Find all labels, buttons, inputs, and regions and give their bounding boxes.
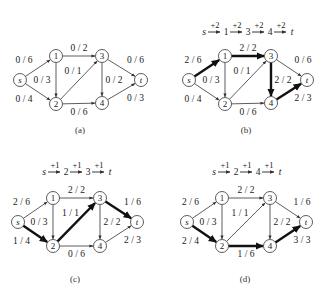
edge-label-s-1: 2 / 6 bbox=[185, 55, 202, 65]
edge-label-s-1: 0 / 6 bbox=[16, 55, 33, 65]
node-label: s bbox=[185, 217, 189, 227]
edge-label-2-3: 0 / 1 bbox=[234, 66, 251, 76]
edge-label-3-4: 2 / 2 bbox=[275, 75, 292, 85]
path-node-3: 3 bbox=[86, 167, 91, 177]
edge-label-1-2: 0 / 3 bbox=[203, 75, 220, 85]
edge-label-s-1: 2 / 6 bbox=[182, 197, 199, 207]
node-label: 2 bbox=[220, 241, 225, 251]
edge-label-2-3: 0 / 1 bbox=[65, 66, 82, 76]
edge-label-s-2: 1 / 4 bbox=[13, 236, 30, 246]
node-t: t bbox=[135, 74, 148, 87]
node-label: 1 bbox=[54, 51, 59, 61]
edge-label-1-2: 0 / 3 bbox=[31, 217, 48, 227]
node-3: 3 bbox=[94, 192, 107, 205]
edge-label-4-t: 2 / 3 bbox=[295, 93, 312, 103]
node-label: 1 bbox=[223, 51, 228, 61]
panel-caption: (c) bbox=[70, 274, 80, 284]
node-t: t bbox=[301, 74, 314, 87]
path-node-4: 4 bbox=[256, 167, 261, 177]
edge-2-4 bbox=[62, 103, 95, 104]
path-node-s: s bbox=[42, 167, 46, 177]
node-3: 3 bbox=[96, 50, 109, 63]
node-label: 1 bbox=[220, 193, 225, 203]
panel-caption: (b) bbox=[241, 125, 252, 135]
edge-label-3-4: 0 / 2 bbox=[106, 75, 123, 85]
node-label: 3 bbox=[98, 193, 103, 203]
panel-caption: (d) bbox=[240, 274, 251, 284]
node-1: 1 bbox=[216, 192, 229, 205]
node-2: 2 bbox=[216, 240, 229, 253]
edge-label-2-3: 1 / 1 bbox=[62, 208, 79, 218]
augmenting-path: s+21+23+24+2t bbox=[202, 20, 294, 37]
edge-label-4-t: 0 / 3 bbox=[127, 93, 144, 103]
node-s: s bbox=[12, 216, 25, 229]
path-increment: +2 bbox=[232, 20, 241, 30]
path-node-1: 1 bbox=[224, 27, 229, 37]
path-node-3: 3 bbox=[246, 27, 251, 37]
edge-label-1-2: 0 / 3 bbox=[200, 217, 217, 227]
node-label: 3 bbox=[100, 51, 105, 61]
edge-label-3-4: 2 / 2 bbox=[104, 217, 121, 227]
panel-caption: (a) bbox=[75, 125, 85, 135]
path-increment: +1 bbox=[264, 160, 273, 170]
panel-a: 0 / 60 / 40 / 30 / 20 / 10 / 60 / 20 / 6… bbox=[14, 43, 148, 135]
node-1: 1 bbox=[50, 50, 63, 63]
panel-b: 2 / 60 / 40 / 32 / 20 / 10 / 62 / 20 / 6… bbox=[183, 20, 314, 135]
node-1: 1 bbox=[219, 50, 232, 63]
edge-label-3-4: 2 / 2 bbox=[274, 217, 291, 227]
edge-label-3-t: 0 / 6 bbox=[295, 55, 312, 65]
node-2: 2 bbox=[219, 98, 232, 111]
path-increment: +2 bbox=[276, 20, 285, 30]
node-4: 4 bbox=[264, 240, 277, 253]
node-label: 3 bbox=[269, 51, 274, 61]
edge-label-2-4: 0 / 6 bbox=[68, 249, 85, 259]
node-label: 3 bbox=[268, 193, 273, 203]
path-node-s: s bbox=[212, 167, 216, 177]
node-s: s bbox=[183, 74, 196, 87]
node-label: 2 bbox=[223, 99, 228, 109]
path-node-2: 2 bbox=[234, 167, 239, 177]
edge-label-s-2: 0 / 4 bbox=[16, 94, 33, 104]
node-label: 1 bbox=[51, 193, 56, 203]
panel-c: 2 / 61 / 40 / 32 / 21 / 10 / 62 / 21 / 6… bbox=[12, 160, 144, 284]
node-t: t bbox=[300, 216, 313, 229]
edge-label-2-4: 0 / 6 bbox=[71, 107, 88, 117]
edge-label-1-3: 2 / 2 bbox=[68, 185, 85, 195]
path-increment: +1 bbox=[94, 160, 103, 170]
path-node-4: 4 bbox=[268, 27, 273, 37]
node-2: 2 bbox=[47, 240, 60, 253]
augmenting-path: s+12+13+1t bbox=[42, 160, 112, 177]
node-4: 4 bbox=[265, 97, 278, 110]
node-3: 3 bbox=[264, 192, 277, 205]
panel-d: 2 / 62 / 40 / 32 / 21 / 11 / 62 / 21 / 6… bbox=[181, 160, 313, 284]
path-increment: +2 bbox=[210, 20, 219, 30]
node-label: 4 bbox=[98, 241, 103, 251]
node-label: 4 bbox=[268, 241, 273, 251]
path-node-t: t bbox=[291, 27, 294, 37]
node-label: 2 bbox=[54, 99, 59, 109]
path-increment: +1 bbox=[50, 160, 59, 170]
node-3: 3 bbox=[265, 50, 278, 63]
edge-label-4-t: 3 / 3 bbox=[294, 235, 311, 245]
path-increment: +1 bbox=[72, 160, 81, 170]
node-t: t bbox=[131, 216, 144, 229]
node-label: 4 bbox=[269, 98, 274, 108]
node-label: s bbox=[16, 217, 20, 227]
node-2: 2 bbox=[50, 98, 63, 111]
node-4: 4 bbox=[96, 97, 109, 110]
node-label: s bbox=[187, 75, 191, 85]
augmenting-path: s+12+14+1t bbox=[212, 160, 282, 177]
edge-label-2-3: 1 / 1 bbox=[232, 208, 249, 218]
edge-label-1-3: 2 / 2 bbox=[238, 185, 255, 195]
path-increment: +2 bbox=[254, 20, 263, 30]
edge-label-2-4: 1 / 6 bbox=[238, 249, 255, 259]
path-node-t: t bbox=[109, 167, 112, 177]
edge-label-s-2: 0 / 4 bbox=[185, 94, 202, 104]
edge-label-1-3: 0 / 2 bbox=[71, 43, 88, 53]
edge-label-2-4: 0 / 6 bbox=[240, 107, 257, 117]
edge-label-1-2: 0 / 3 bbox=[34, 75, 51, 85]
path-node-s: s bbox=[202, 27, 206, 37]
node-label: 4 bbox=[100, 98, 105, 108]
node-label: s bbox=[18, 75, 22, 85]
edge-label-3-t: 1 / 6 bbox=[124, 197, 141, 207]
